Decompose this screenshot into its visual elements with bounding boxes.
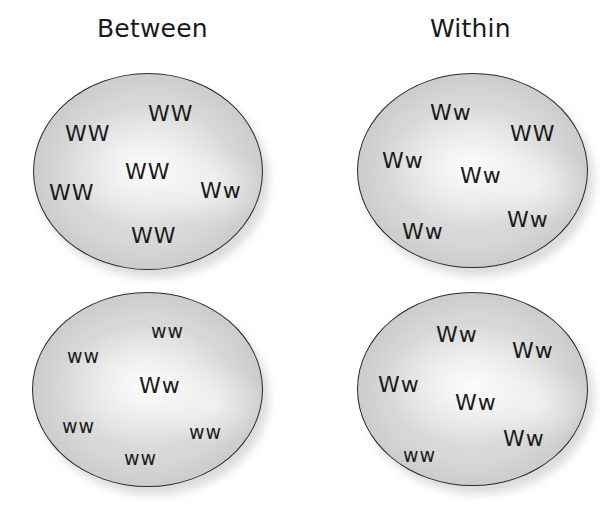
genotype-label: Ww — [512, 340, 554, 362]
genotype-label: ww — [151, 322, 184, 341]
genotype-label: WW — [65, 123, 111, 145]
population-within-1: Ww WW Ww Ww Ww Ww — [357, 73, 588, 268]
genotype-label: Ww — [430, 102, 472, 124]
genotype-label: Ww — [378, 374, 420, 396]
genotype-label: ww — [67, 347, 100, 366]
genotype-label: ww — [189, 423, 222, 442]
genotype-label: Ww — [436, 324, 478, 346]
genotype-label: ww — [403, 446, 436, 465]
population-between-2: ww ww Ww ww ww ww — [32, 292, 263, 487]
genotype-label: Ww — [460, 165, 502, 187]
column-title-between: Between — [97, 14, 208, 43]
genotype-label: Ww — [402, 221, 444, 243]
genotype-label: WW — [125, 161, 171, 183]
population-between-1: WW WW WW WW Ww WW — [33, 73, 263, 270]
genotype-label: Ww — [382, 150, 424, 172]
genotype-label: Ww — [455, 392, 497, 414]
genotype-label: Ww — [200, 180, 242, 202]
genotype-label: WW — [510, 123, 556, 145]
population-within-2: Ww Ww Ww Ww Ww ww — [357, 292, 588, 486]
genotype-label: Ww — [139, 375, 181, 397]
genotype-label: Ww — [503, 428, 545, 450]
genotype-label: WW — [49, 182, 95, 204]
genotype-label: ww — [62, 417, 95, 436]
genotype-label: WW — [148, 103, 194, 125]
genotype-label: Ww — [507, 209, 549, 231]
genotype-label: WW — [131, 225, 177, 247]
column-title-within: Within — [430, 14, 511, 43]
genotype-label: ww — [124, 449, 157, 468]
